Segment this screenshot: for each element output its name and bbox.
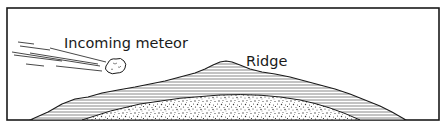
ridge-label: Ridge [246,53,288,69]
meteor-label: Incoming meteor [64,35,188,51]
meteor-ridge-diagram: Incoming meteor Ridge [0,0,444,130]
